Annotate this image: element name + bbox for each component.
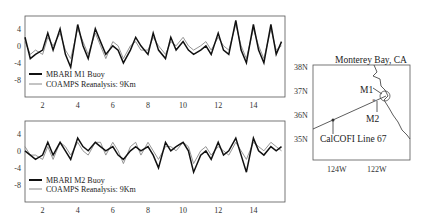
location-map: Monterey Bay, CA 38N 37N 36N 35N 124W 12… <box>294 55 410 174</box>
lon-tick: 122W <box>367 165 387 174</box>
legend-coamps: COAMPS Reanalysis: 9Km <box>46 185 137 194</box>
calcofi-label: CalCOFI Line 67 <box>320 134 387 144</box>
lat-tick: 38N <box>294 63 308 72</box>
lat-tick: 36N <box>294 111 308 120</box>
x-tick: 6 <box>111 206 115 215</box>
x-tick: 14 <box>249 206 257 215</box>
x-tick: 10 <box>179 101 187 110</box>
m2-label: M2 <box>366 114 379 124</box>
svg-text:*: * <box>372 97 376 105</box>
figure: 40-4-82468101214 MBARI M1 Buoy COAMPS Re… <box>0 0 426 222</box>
y-tick: 4 <box>17 130 21 139</box>
y-tick: -8 <box>14 76 21 85</box>
x-tick: 4 <box>76 101 80 110</box>
m1-label: M1 <box>360 85 373 95</box>
y-tick: -4 <box>14 164 21 173</box>
buoy-line <box>25 138 282 172</box>
lat-tick: 37N <box>294 87 308 96</box>
x-tick: 12 <box>214 101 222 110</box>
map-frame <box>313 65 410 160</box>
x-tick: 2 <box>41 101 45 110</box>
x-tick: 10 <box>179 206 187 215</box>
x-tick: 4 <box>76 206 80 215</box>
lon-tick: 124W <box>327 165 347 174</box>
legend-buoy: MBARI M1 Buoy <box>46 70 105 79</box>
buoy-line <box>25 20 282 67</box>
x-tick: 14 <box>249 101 257 110</box>
m1-timeseries-panel: 40-4-82468101214 MBARI M1 Buoy COAMPS Re… <box>14 16 285 110</box>
legend-buoy: MBARI M2 Buoy <box>46 176 105 185</box>
y-tick: -8 <box>14 181 21 190</box>
x-tick: 8 <box>146 206 150 215</box>
legend-coamps: COAMPS Reanalysis: 9Km <box>46 80 137 89</box>
y-tick: 0 <box>17 147 21 156</box>
y-tick: 0 <box>17 42 21 51</box>
map-title: Monterey Bay, CA <box>335 55 407 65</box>
lat-tick: 35N <box>294 135 308 144</box>
y-tick: -4 <box>14 59 21 68</box>
x-tick: 2 <box>41 206 45 215</box>
y-tick: 4 <box>17 25 21 34</box>
x-tick: 12 <box>214 206 222 215</box>
x-tick: 8 <box>146 101 150 110</box>
m2-timeseries-panel: 40-4-82468101214 MBARI M2 Buoy COAMPS Re… <box>14 121 285 215</box>
x-tick: 6 <box>111 101 115 110</box>
